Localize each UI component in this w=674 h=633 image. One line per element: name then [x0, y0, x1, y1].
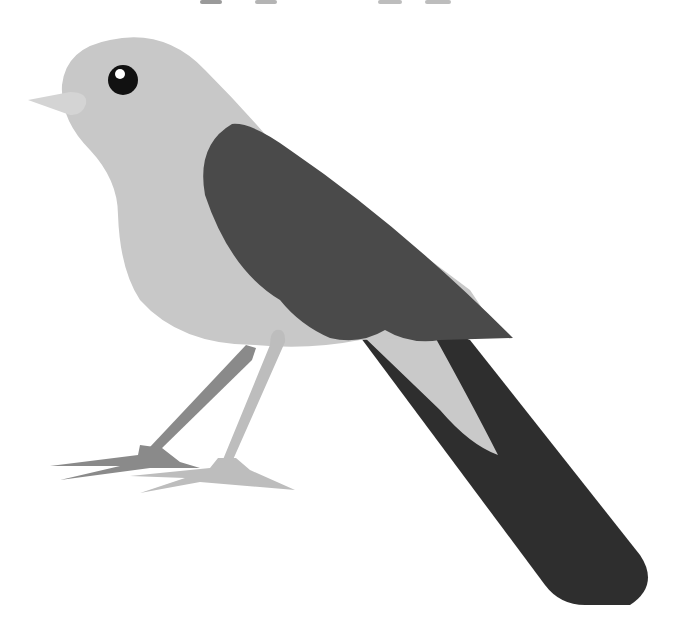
- tail: [355, 320, 648, 605]
- eye: [108, 65, 138, 95]
- top-marks: [200, 0, 451, 4]
- bird-illustration: Stylized grayscale illustration of a per…: [0, 0, 674, 633]
- front-leg: [130, 330, 295, 493]
- beak: [28, 92, 86, 115]
